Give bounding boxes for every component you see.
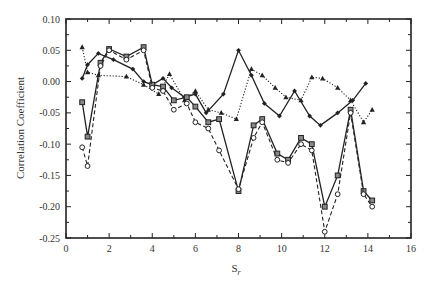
data-point-marker — [193, 120, 198, 125]
data-point-marker — [184, 101, 189, 106]
x-axis-title: Sr — [231, 262, 241, 277]
y-axis-title: Correlation Coefficient — [14, 77, 26, 179]
data-point-marker — [80, 145, 85, 150]
x-tick-label: 10 — [277, 243, 287, 254]
data-point-marker — [370, 198, 375, 203]
data-point-marker — [161, 89, 166, 94]
data-point-marker — [251, 135, 256, 140]
data-point-marker — [85, 164, 90, 169]
axis-ticks: 02468101214160.100.050.00-0.05-0.10-0.15… — [39, 14, 416, 255]
data-point-marker — [111, 57, 116, 62]
x-tick-label: 8 — [236, 243, 241, 254]
data-point-marker — [217, 117, 222, 122]
data-point-marker — [107, 48, 112, 53]
data-point-marker — [193, 104, 198, 109]
y-tick-label: -0.20 — [39, 201, 60, 212]
data-point-marker — [299, 142, 304, 147]
x-tick-label: 4 — [150, 243, 155, 254]
data-point-marker — [167, 71, 172, 76]
series-1-solid-diamond — [80, 48, 368, 128]
data-point-marker — [249, 66, 254, 71]
y-tick-label: -0.10 — [39, 139, 60, 150]
data-point-marker — [184, 95, 189, 100]
data-point-marker — [260, 120, 265, 125]
data-point-marker — [322, 204, 327, 209]
data-point-marker — [171, 107, 176, 112]
data-point-marker — [80, 100, 85, 105]
data-point-marker — [80, 44, 85, 49]
y-tick-label: -0.05 — [39, 107, 60, 118]
data-point-marker — [193, 88, 198, 93]
data-point-marker — [150, 85, 155, 90]
y-tick-label: 0.00 — [43, 76, 61, 87]
series-layer — [80, 44, 375, 234]
series-4-dashed-circle — [80, 48, 375, 234]
x-tick-label: 16 — [406, 243, 416, 254]
data-point-marker — [141, 48, 146, 53]
x-tick-label: 12 — [320, 243, 330, 254]
data-point-marker — [361, 119, 366, 124]
y-tick-label: 0.10 — [43, 14, 61, 25]
y-tick-label: -0.25 — [39, 233, 60, 244]
data-point-marker — [322, 229, 327, 234]
data-point-marker — [335, 85, 340, 90]
data-point-marker — [275, 157, 280, 162]
data-point-marker — [217, 148, 222, 153]
data-point-marker — [206, 120, 211, 125]
series-3-solid-square — [80, 45, 375, 209]
y-tick-label: 0.05 — [43, 45, 61, 56]
data-point-marker — [275, 151, 280, 156]
data-point-marker — [286, 161, 291, 166]
data-point-marker — [335, 173, 340, 178]
data-point-marker — [370, 204, 375, 209]
x-tick-label: 6 — [193, 243, 198, 254]
data-point-marker — [320, 76, 325, 81]
data-point-marker — [236, 48, 241, 53]
data-point-marker — [348, 110, 353, 115]
data-point-marker — [219, 110, 224, 115]
data-point-marker — [335, 192, 340, 197]
data-point-marker — [361, 192, 366, 197]
x-tick-label: 0 — [64, 243, 69, 254]
x-tick-label: 14 — [363, 243, 373, 254]
data-point-marker — [124, 57, 129, 62]
data-point-marker — [98, 64, 103, 69]
data-point-marker — [80, 76, 85, 81]
x-axis-title-subscript: r — [238, 268, 242, 277]
chart-svg: 02468101214160.100.050.00-0.05-0.10-0.15… — [0, 0, 432, 293]
data-point-marker — [260, 73, 265, 78]
data-point-marker — [309, 142, 314, 147]
data-point-marker — [124, 74, 129, 79]
data-point-marker — [206, 126, 211, 131]
data-point-marker — [251, 123, 256, 128]
y-tick-label: -0.15 — [39, 170, 60, 181]
data-point-marker — [299, 135, 304, 140]
x-tick-label: 2 — [107, 243, 112, 254]
data-point-marker — [171, 98, 176, 103]
data-point-marker — [370, 107, 375, 112]
data-point-marker — [85, 134, 90, 139]
data-point-marker — [236, 187, 241, 192]
data-point-marker — [309, 74, 314, 79]
data-point-marker — [309, 148, 314, 153]
